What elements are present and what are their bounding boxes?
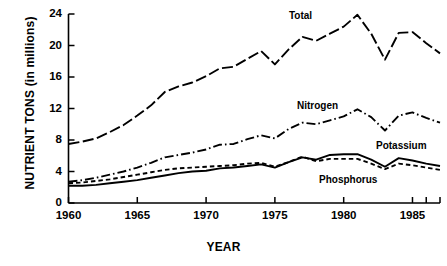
series-line-potassium [69,154,441,186]
x-tick-label: 1965 [117,209,157,221]
y-axis-ticks [69,14,75,203]
y-tick-label: 20 [36,39,62,51]
x-tick-label: 1985 [392,209,432,221]
series-line-total [69,15,441,144]
x-axis-ticks [69,197,441,203]
series-line-phosphorus [69,157,441,184]
series-label-potassium: Potassium [375,140,428,151]
x-axis-title: YEAR [0,240,447,254]
data-series-group [69,15,441,186]
chart-plot-area [0,0,447,266]
series-label-nitrogen: Nitrogen [296,100,339,111]
x-tick-label: 1970 [186,209,226,221]
y-axis-title: NUTRIENT TONS (in millions) [23,5,37,201]
y-tick-label: 0 [36,196,62,208]
y-tick-label: 12 [36,102,62,114]
x-tick-label: 1960 [49,209,89,221]
series-label-phosphorus: Phosphorus [318,174,378,185]
y-tick-label: 8 [36,133,62,145]
chart-axes [69,14,441,203]
x-tick-label: 1980 [324,209,364,221]
nutrient-tons-line-chart: NUTRIENT TONS (in millions) YEAR 2420161… [0,0,447,266]
y-tick-label: 4 [36,165,62,177]
y-tick-label: 16 [36,70,62,82]
x-tick-label: 1975 [255,209,295,221]
series-label-total: Total [288,10,313,21]
y-tick-label: 24 [36,7,62,19]
